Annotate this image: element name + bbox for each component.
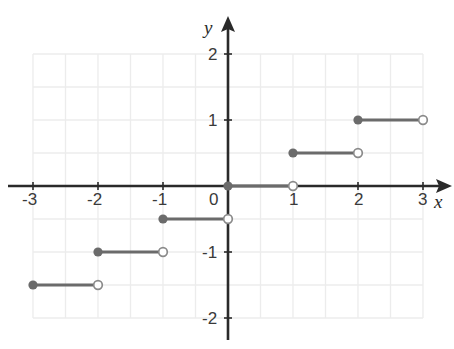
y-axis-tick-label: -2 [202,310,217,327]
x-axis-tick-label: 1 [289,191,298,208]
closed-endpoint-dot [353,115,362,124]
open-endpoint-dot [159,248,168,257]
y-axis-tick-label: 2 [208,46,217,63]
closed-endpoint-dot [288,148,297,157]
open-endpoint-dot [419,116,428,125]
x-axis-name: x [434,192,442,211]
x-axis-tick-label: 0 [209,191,218,208]
x-axis-tick-label: -1 [152,191,167,208]
closed-endpoint-dot [93,247,102,256]
x-axis-tick-label: 3 [418,191,427,208]
plot-area [0,0,454,349]
open-endpoint-dot [354,149,363,158]
closed-endpoint-dot [158,214,167,223]
x-axis-tick-label: 2 [354,191,363,208]
y-axis-tick-label: 1 [208,112,217,129]
open-endpoint-dot [224,215,233,224]
axes [8,16,452,340]
open-endpoint-dot [94,281,103,290]
y-axis-name: y [204,18,212,37]
x-axis-tick-label: -3 [22,191,37,208]
closed-endpoint-dot [28,280,37,289]
step-function-graph: -3-2-1012321-1-2 xy [0,0,454,349]
y-axis-tick-label: -1 [202,244,217,261]
x-axis-tick-label: -2 [87,191,102,208]
closed-endpoint-dot [223,181,232,190]
open-endpoint-dot [289,182,298,191]
